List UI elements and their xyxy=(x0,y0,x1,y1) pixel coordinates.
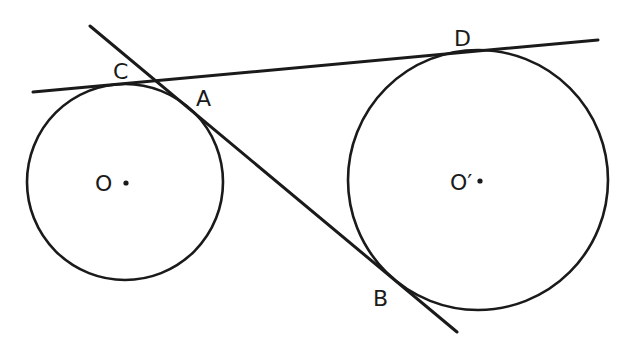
tangent-line-ab xyxy=(90,26,457,332)
center-dot-o-prime xyxy=(477,178,482,183)
center-label-o-prime: O′ xyxy=(450,170,472,195)
point-label-a: A xyxy=(196,86,211,111)
point-label-c: C xyxy=(113,59,128,84)
two-circles-tangent-diagram: C A D B O O′ xyxy=(0,0,629,348)
center-label-o: O xyxy=(95,171,112,196)
point-label-d: D xyxy=(454,26,471,51)
center-dot-o xyxy=(123,180,128,185)
point-label-b: B xyxy=(373,286,388,311)
